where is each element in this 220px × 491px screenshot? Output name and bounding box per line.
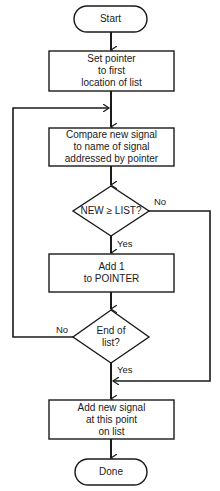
ge-no-label: No (154, 196, 166, 207)
add-one-label: Add 1 to POINTER (49, 261, 174, 285)
end-no-label: No (56, 324, 68, 335)
end-of-list-label: End of list? (73, 325, 149, 349)
start-label: Start (74, 13, 147, 25)
compare-label: Compare new signal to name of signal add… (49, 129, 174, 165)
ge-yes-label: Yes (117, 238, 133, 249)
done-label: Done (75, 466, 147, 478)
add-new-signal-label: Add new signal at this point on list (49, 402, 174, 438)
connector-ge-no (113, 211, 210, 381)
new-ge-list-label: NEW ≥ LIST? (73, 205, 149, 217)
end-yes-label: Yes (117, 364, 133, 375)
set-pointer-label: Set pointer to first location of list (49, 53, 174, 89)
